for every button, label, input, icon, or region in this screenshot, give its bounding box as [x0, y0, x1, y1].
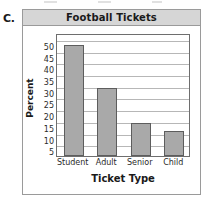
bar-adult: [97, 88, 117, 156]
x-axis-tick-adult: Adult: [96, 159, 117, 167]
chart-title: Football Tickets: [66, 13, 157, 23]
page-bleed-artifact: [0, 0, 206, 8]
y-axis-tick: 30: [44, 91, 54, 99]
chart-header: Football Tickets: [23, 10, 200, 26]
x-axis-label: Ticket Type: [56, 173, 190, 184]
x-axis-tick-student: Student: [57, 159, 89, 167]
artifact-mark: [98, 1, 111, 3]
y-axis-tick: 50: [44, 44, 54, 52]
bar-series: [57, 35, 189, 156]
bar-child: [164, 131, 184, 156]
plot-area: [56, 34, 190, 157]
x-axis-tick-senior: Senior: [127, 159, 152, 167]
y-axis-tick: 5: [49, 149, 54, 157]
y-axis-tick: 45: [44, 56, 54, 64]
bar-student: [64, 45, 84, 156]
y-axis-label-text: Percent: [25, 78, 35, 117]
item-marker: C.: [3, 12, 15, 25]
y-axis-tick: 35: [44, 79, 54, 87]
artifact-mark: [152, 1, 162, 3]
y-axis-tick: 20: [44, 114, 54, 122]
y-axis-tick: 10: [44, 138, 54, 146]
y-axis-tick: 15: [44, 126, 54, 134]
chart-body: Percent 5101520253035404550 StudentAdult…: [23, 26, 200, 195]
chart-card: Football Tickets Percent 510152025303540…: [22, 9, 201, 195]
chart-screenshot: C. Football Tickets Percent 510152025303…: [0, 0, 206, 203]
y-axis-label: Percent: [24, 62, 35, 134]
bar-senior: [131, 123, 151, 156]
x-axis-tick-child: Child: [163, 159, 183, 167]
x-axis-tick-labels: StudentAdultSeniorChild: [56, 159, 190, 171]
y-axis-tick: 25: [44, 102, 54, 110]
y-axis-tick-labels: 5101520253035404550: [35, 34, 55, 157]
artifact-mark: [44, 1, 57, 3]
y-axis-tick: 40: [44, 67, 54, 75]
